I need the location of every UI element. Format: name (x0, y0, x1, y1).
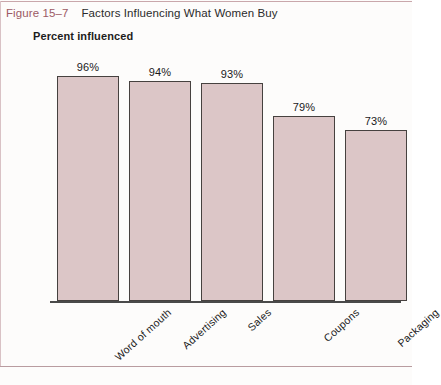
left-edge-rule (0, 1, 1, 367)
category-label: Coupons (321, 306, 361, 344)
bottom-rule (0, 366, 412, 367)
plot-area: 96%94%93%79%73% (50, 55, 402, 303)
top-rule (0, 1, 412, 2)
bar[interactable] (129, 81, 191, 301)
figure-caption: Figure 15–7Factors Influencing What Wome… (6, 7, 278, 19)
bar[interactable] (273, 116, 335, 301)
y-axis-label: Percent influenced (33, 30, 133, 42)
bar-value-label: 96% (57, 61, 119, 73)
bar-value-label: 94% (129, 66, 191, 78)
bar-slot: 73% (345, 130, 407, 301)
bar-value-label: 73% (345, 115, 407, 127)
bar-slot: 94% (129, 81, 191, 301)
figure-number: Figure 15–7 (6, 7, 68, 19)
bar-value-label: 79% (273, 101, 335, 113)
bar-slot: 96% (57, 76, 119, 301)
bar[interactable] (57, 76, 119, 301)
figure-title: Factors Influencing What Women Buy (81, 7, 277, 19)
bar[interactable] (345, 130, 407, 301)
category-label: Packaging (395, 306, 441, 349)
category-label: Advertising (180, 306, 228, 351)
bar-value-label: 93% (201, 68, 263, 80)
category-label: Sales (245, 306, 273, 333)
bar[interactable] (201, 83, 263, 301)
category-label: Word of mouth (112, 306, 173, 363)
bar-slot: 79% (273, 116, 335, 301)
bar-slot: 93% (201, 83, 263, 301)
x-axis-baseline (50, 301, 401, 303)
